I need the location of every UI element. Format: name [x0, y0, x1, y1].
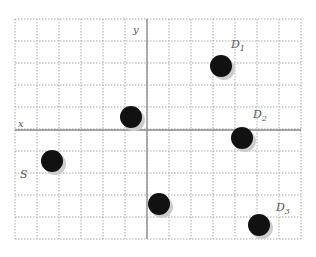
coordinate-grid-diagram: x y S D1 D2 D3 — [0, 0, 316, 257]
label-s: S — [20, 168, 28, 181]
point-unlabeled-lower — [148, 193, 170, 215]
x-axis-label: x — [18, 118, 24, 129]
label-d2: D2 — [252, 108, 267, 123]
point-unlabeled-upper — [120, 106, 142, 128]
label-d1: D1 — [230, 38, 245, 53]
label-d3: D3 — [275, 201, 290, 216]
y-axis-label: y — [132, 24, 139, 35]
point-d2 — [231, 127, 253, 149]
point-d1 — [210, 55, 232, 77]
point-d3 — [248, 214, 270, 236]
points — [41, 55, 273, 239]
point-s — [41, 150, 63, 172]
